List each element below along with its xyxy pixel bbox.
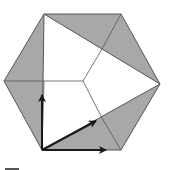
hexagon-diagram — [0, 0, 181, 170]
